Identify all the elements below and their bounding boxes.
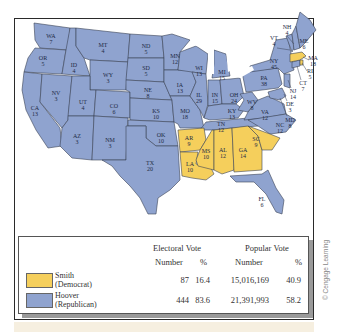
svg-text:14: 14 [290, 94, 296, 100]
ev-number-subheader: Number [155, 257, 183, 267]
bottom-strip [14, 322, 314, 332]
svg-text:8: 8 [147, 93, 150, 99]
svg-text:9: 9 [188, 141, 191, 147]
state-or [24, 48, 66, 74]
svg-text:13: 13 [196, 71, 202, 77]
state-md-de [268, 88, 286, 100]
copyright-credit: © Cengage Learning [322, 240, 329, 300]
svg-text:45: 45 [271, 64, 277, 70]
svg-text:10: 10 [187, 167, 193, 173]
svg-text:4: 4 [82, 105, 85, 111]
svg-text:5: 5 [42, 61, 45, 67]
pv-number-subheader: Number [235, 257, 263, 267]
hoover-pv-pct: 58.2 [286, 295, 301, 305]
svg-text:10: 10 [158, 138, 164, 144]
svg-text:6: 6 [113, 109, 116, 115]
svg-text:18: 18 [182, 114, 188, 120]
svg-text:10: 10 [153, 114, 159, 120]
popular-vote-header: Popular Vote [245, 243, 289, 253]
svg-text:3: 3 [109, 143, 112, 149]
svg-text:3: 3 [76, 139, 79, 145]
smith-pv-number: 15,016,169 [231, 275, 269, 285]
svg-text:7: 7 [50, 39, 53, 45]
svg-text:12: 12 [218, 127, 224, 133]
svg-text:38: 38 [261, 81, 267, 87]
hoover-label: Hoover (Republican) [55, 292, 97, 309]
lake-michigan [208, 50, 214, 74]
svg-text:24: 24 [231, 98, 237, 104]
svg-text:4: 4 [73, 68, 76, 74]
state-ky [204, 104, 244, 120]
svg-text:4: 4 [286, 30, 289, 36]
smith-ev-pct: 16.4 [195, 275, 210, 285]
svg-text:20: 20 [147, 166, 153, 172]
smith-label: Smith (Democrat) [55, 272, 92, 289]
svg-text:15: 15 [219, 75, 225, 81]
svg-text:12: 12 [220, 153, 226, 159]
smith-pv-pct: 40.9 [286, 275, 301, 285]
hoover-pv-number: 21,391,993 [231, 295, 269, 305]
svg-text:9: 9 [255, 142, 258, 148]
svg-text:3: 3 [289, 107, 292, 113]
svg-text:4: 4 [273, 41, 276, 47]
hoover-swatch [26, 293, 53, 308]
svg-text:13: 13 [32, 111, 38, 117]
legend-box: Electoral Vote Popular Vote Number % Num… [18, 236, 309, 314]
state-ma [290, 52, 306, 62]
svg-text:12: 12 [172, 59, 178, 65]
svg-text:18: 18 [310, 61, 316, 67]
svg-text:3: 3 [55, 96, 58, 102]
smith-ev-number: 87 [181, 275, 190, 285]
svg-text:12: 12 [277, 128, 283, 134]
svg-text:15: 15 [212, 98, 218, 104]
svg-text:29: 29 [196, 98, 202, 104]
state-nj [284, 74, 290, 88]
hoover-ev-pct: 83.6 [195, 295, 210, 305]
svg-text:3: 3 [107, 78, 110, 84]
state-wi [178, 46, 208, 74]
svg-text:5: 5 [145, 71, 148, 77]
ev-pct-subheader: % [200, 257, 207, 267]
svg-text:14: 14 [240, 153, 246, 159]
smith-swatch [26, 273, 53, 288]
svg-text:12: 12 [262, 115, 268, 121]
svg-text:7: 7 [302, 86, 305, 92]
state-fl [230, 170, 284, 214]
svg-text:5: 5 [309, 74, 312, 80]
svg-text:8: 8 [289, 123, 292, 129]
svg-text:13: 13 [177, 88, 183, 94]
electoral-vote-header: Electoral Vote [153, 243, 201, 253]
svg-text:8: 8 [251, 105, 254, 111]
svg-text:6: 6 [261, 202, 264, 208]
hoover-ev-number: 444 [176, 295, 189, 305]
pv-pct-subheader: % [295, 257, 302, 267]
svg-text:4: 4 [102, 48, 105, 54]
svg-text:6: 6 [303, 44, 306, 50]
svg-text:13: 13 [229, 114, 235, 120]
svg-text:10: 10 [203, 154, 209, 160]
svg-text:5: 5 [145, 49, 148, 55]
